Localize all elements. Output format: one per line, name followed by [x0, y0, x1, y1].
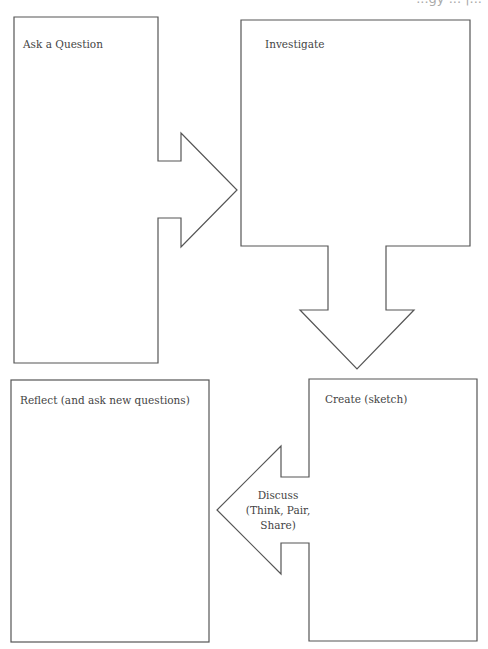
process-diagram: ...gy ... |... Ask a Question Investigat… — [0, 0, 488, 649]
arrow-label-line-1: Discuss — [233, 488, 323, 503]
arrow-label-line-3: Share) — [233, 518, 323, 533]
investigate-box-with-down-arrow — [241, 20, 470, 369]
step-label-ask-question: Ask a Question — [23, 38, 103, 50]
step-label-investigate: Investigate — [265, 38, 324, 50]
step-label-create: Create (sketch) — [325, 393, 407, 405]
reflect-box — [11, 380, 209, 642]
ask-question-box-with-right-arrow — [14, 17, 237, 363]
step-label-reflect: Reflect (and ask new questions) — [20, 394, 190, 406]
arrow-label-discuss: Discuss (Think, Pair, Share) — [233, 488, 323, 533]
diagram-shapes — [0, 0, 488, 649]
arrow-label-line-2: (Think, Pair, — [233, 503, 323, 518]
